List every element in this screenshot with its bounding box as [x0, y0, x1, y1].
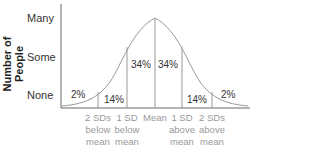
pct-seg-4: 34%	[158, 59, 178, 70]
pct-seg-5: 14%	[187, 94, 207, 105]
pct-seg-1: 2%	[71, 89, 86, 100]
pct-seg-6: 2%	[221, 89, 236, 100]
pct-seg-3: 34%	[131, 59, 151, 70]
pct-seg-2: 14%	[104, 94, 124, 105]
x-tick-plus-2sd: 2 SDsabovemean	[194, 112, 230, 148]
